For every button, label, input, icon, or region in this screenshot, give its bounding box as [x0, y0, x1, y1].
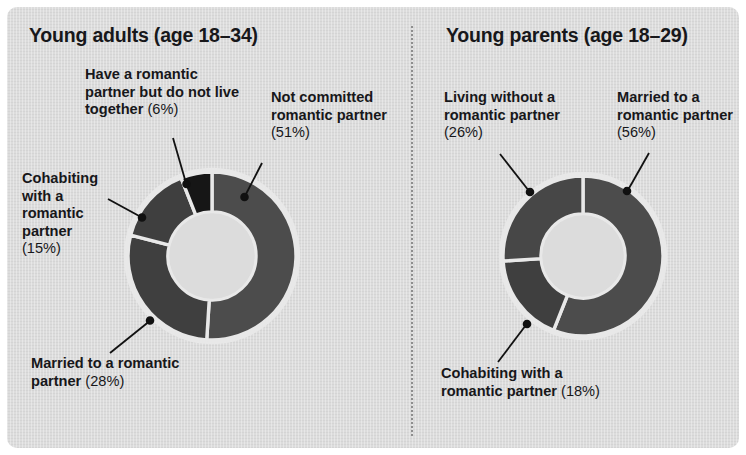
- callout-pct: (28%): [85, 373, 124, 389]
- leader-dot-left-28pct: [147, 317, 154, 324]
- callout-right-married: Married to a romantic partner (56%): [617, 89, 735, 142]
- callout-text: Cohabiting with a romantic partner: [441, 365, 563, 399]
- callout-left-not-committed: Not committed romantic partner (51%): [271, 89, 396, 142]
- leader-line-left-15pct: [108, 199, 141, 217]
- leader-dot-right-18pct: [524, 321, 531, 328]
- callout-text: Not committed romantic partner: [271, 89, 387, 123]
- leader-dot-left-15pct: [139, 214, 146, 221]
- callout-left-married: Married to a romantic partner (28%): [31, 355, 191, 390]
- callout-pct: (56%): [617, 124, 656, 140]
- callout-pct: (15%): [22, 240, 61, 256]
- page-title-young-adults: Young adults (age 18–34): [29, 24, 258, 47]
- callout-text: Cohabiting with a romantic partner: [22, 170, 98, 239]
- callout-text: Living without a romantic partner: [444, 89, 560, 123]
- callout-pct: (6%): [147, 101, 178, 117]
- callout-pct: (26%): [444, 124, 483, 140]
- callout-left-no-cohab: Have a romantic partner but do not live …: [85, 66, 243, 119]
- leader-line-right-26pct: [500, 154, 529, 191]
- callout-right-living-without: Living without a romantic partner (26%): [444, 89, 566, 142]
- callout-right-cohabiting: Cohabiting with a romantic partner (18%): [441, 365, 601, 400]
- leader-line-left-6pct: [173, 138, 186, 183]
- callout-text: Married to a romantic partner: [617, 89, 733, 123]
- leader-line-left-51pct: [245, 163, 262, 196]
- leader-dot-right-26pct: [527, 189, 534, 196]
- leader-line-right-18pct: [498, 325, 526, 362]
- callout-pct: (18%): [561, 383, 600, 399]
- leader-dot-right-56pct: [624, 188, 631, 195]
- leader-line-left-28pct: [110, 320, 151, 353]
- leader-dot-left-51pct: [241, 194, 248, 201]
- figure-root: Young adults (age 18–34) Young parents (…: [0, 0, 746, 455]
- page-title-young-parents: Young parents (age 18–29): [446, 24, 688, 47]
- leader-dot-left-6pct: [183, 181, 190, 188]
- callout-pct: (51%): [271, 124, 310, 140]
- leader-line-right-56pct: [628, 153, 649, 190]
- callout-left-cohabiting: Cohabiting with a romantic partner (15%): [22, 170, 104, 258]
